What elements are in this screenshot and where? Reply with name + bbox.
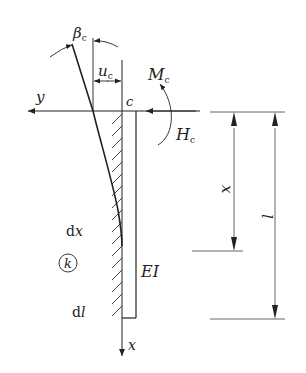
y-axis-label: y (35, 88, 45, 106)
moment-arc (158, 84, 171, 145)
k-label: k (64, 256, 72, 271)
soil-hatching (112, 114, 122, 316)
dl-label: dl (72, 304, 85, 320)
ei-label: EI (140, 262, 160, 281)
dim-x-label: x (218, 185, 236, 194)
x-axis-label: x (128, 337, 136, 353)
origin-label: c (126, 94, 134, 109)
moment-label: Mc (147, 65, 169, 85)
force-label: Hc (175, 125, 195, 145)
dim-l-label: l (258, 214, 276, 219)
rotation-arc (50, 41, 118, 57)
pile-diagram: βc uc Mc Hc y c dx k EI dl x x l (0, 0, 306, 373)
dx-label: dx (66, 223, 83, 239)
beta-label: βc (72, 24, 87, 43)
u-label: uc (98, 62, 113, 81)
pile-beam (122, 111, 136, 318)
